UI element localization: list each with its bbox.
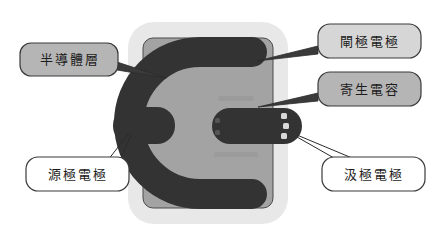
- leader-drain-electrode-b: [297, 137, 334, 158]
- callout-semiconductor-layer[interactable]: 半導體層: [20, 43, 118, 76]
- callout-gate-electrode-label: 閘極電極: [340, 34, 400, 49]
- source-electrode-pad: [113, 107, 175, 144]
- callout-parasitic-capacitance[interactable]: 寄生電容: [318, 72, 421, 106]
- callout-drain-electrode[interactable]: 汲極電極: [322, 157, 425, 191]
- callout-source-electrode[interactable]: 源極電極: [26, 157, 129, 191]
- drain-electrode-pad: [212, 108, 302, 144]
- callout-semiconductor-layer-label: 半導體層: [40, 52, 100, 67]
- callout-drain-electrode-label: 汲極電極: [344, 167, 404, 182]
- leader-drain-electrode-a: [297, 135, 352, 158]
- callout-source-electrode-label: 源極電極: [48, 167, 108, 182]
- callout-parasitic-capacitance-label: 寄生電容: [340, 82, 400, 97]
- device-cross-section-diagram: 半導體層 閘極電極 寄生電容 源極電極 汲極電極: [0, 0, 443, 243]
- diagram-canvas: 半導體層 閘極電極 寄生電容 源極電極 汲極電極: [0, 0, 443, 243]
- device-stack: [113, 22, 302, 224]
- callout-gate-electrode[interactable]: 閘極電極: [318, 24, 421, 58]
